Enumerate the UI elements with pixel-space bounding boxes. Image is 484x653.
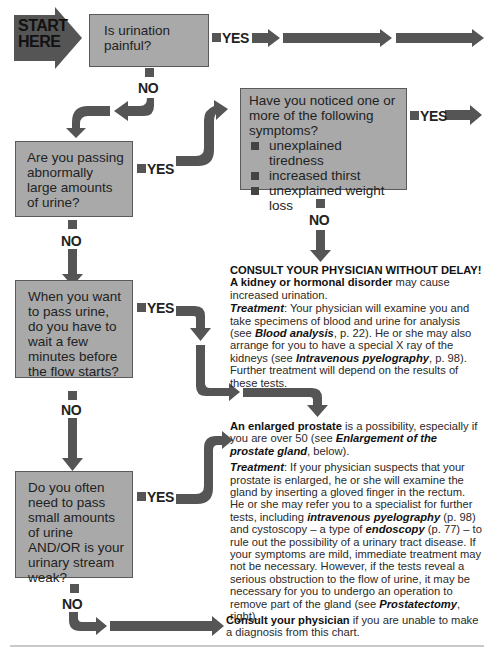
question-box-painful-urination: Is urination painful? bbox=[89, 14, 209, 67]
yes-marker-icon bbox=[137, 164, 146, 173]
question-box-wait-flow: When you want to pass urine, do you have… bbox=[15, 280, 133, 378]
outcome-consult-physician: Consult your physician if you are unable… bbox=[226, 614, 480, 639]
treatment-label: Treatment bbox=[230, 302, 284, 314]
yes-label: YES bbox=[147, 161, 174, 177]
outcome-kidney-disorder: CONSULT YOUR PHYSICIAN WITHOUT DELAY! A … bbox=[230, 264, 482, 393]
question-text: Have you noticed one or more of the foll… bbox=[249, 93, 400, 213]
question-text: Is urination painful? bbox=[104, 23, 188, 53]
treatment-label: Treatment bbox=[230, 461, 284, 473]
yes-arrow-icon bbox=[176, 100, 228, 166]
yes-label: YES bbox=[222, 30, 249, 46]
symptom-item: unexplained tiredness bbox=[249, 138, 400, 168]
consult-bold: Consult your physician bbox=[226, 614, 350, 626]
yes-marker-icon bbox=[137, 303, 146, 312]
yes-arrow-icon bbox=[396, 29, 484, 47]
question-box-large-amounts: Are you passing abnormally large amounts… bbox=[15, 141, 133, 217]
yes-label: YES bbox=[420, 108, 447, 124]
yes-arrow-icon bbox=[252, 29, 280, 47]
yes-arrow-icon bbox=[176, 306, 211, 341]
start-line-2: HERE bbox=[18, 34, 68, 50]
question-box-symptoms: Have you noticed one or more of the foll… bbox=[240, 88, 407, 190]
no-arrow-icon bbox=[110, 616, 224, 636]
outcome-enlarged-prostate: An enlarged prostate is a possibility, e… bbox=[230, 420, 482, 627]
no-arrow-icon bbox=[62, 418, 83, 471]
reference-link[interactable]: endoscopy bbox=[366, 523, 425, 535]
yes-marker-icon bbox=[137, 492, 146, 501]
no-arrow-icon bbox=[66, 106, 110, 138]
no-label: NO bbox=[309, 212, 329, 228]
diagnosis-text: , below). bbox=[307, 445, 349, 457]
reference-link[interactable]: intravenous pyelography bbox=[307, 511, 440, 523]
no-arrow-icon bbox=[114, 98, 154, 121]
yes-label: YES bbox=[147, 300, 174, 316]
start-line-1: START bbox=[18, 18, 68, 34]
yes-arrow-icon bbox=[445, 105, 482, 125]
no-label: NO bbox=[61, 233, 81, 249]
symptom-item: increased thirst bbox=[249, 168, 400, 183]
question-box-small-amounts: Do you often need to pass small amounts … bbox=[15, 471, 133, 578]
symptoms-question: Have you noticed one or more of the foll… bbox=[249, 93, 400, 138]
question-text: Are you passing abnormally large amounts… bbox=[27, 150, 126, 210]
yes-arrow-icon bbox=[283, 29, 392, 47]
start-here-label: START HERE bbox=[18, 18, 68, 50]
reference-link[interactable]: Intravenous pyelography bbox=[296, 352, 429, 364]
no-arrow-icon bbox=[69, 612, 107, 635]
question-text: Do you often need to pass small amounts … bbox=[28, 480, 126, 585]
yes-arrow-icon bbox=[176, 431, 233, 504]
no-label: NO bbox=[62, 596, 82, 612]
diagnosis-bold: An enlarged prostate bbox=[230, 420, 342, 432]
diagnosis-bold: A kidney or hormonal disorder bbox=[230, 276, 392, 288]
no-label: NO bbox=[138, 80, 158, 96]
no-label: NO bbox=[61, 402, 81, 418]
yes-marker-icon bbox=[410, 111, 419, 120]
yes-marker-icon bbox=[212, 33, 221, 42]
urgent-headline: CONSULT YOUR PHYSICIAN WITHOUT DELAY! bbox=[230, 264, 482, 276]
symptoms-list: unexplained tiredness increased thirst u… bbox=[249, 138, 400, 213]
symptom-item: unexplained weight loss bbox=[249, 183, 400, 213]
no-arrow-icon bbox=[310, 230, 331, 262]
reference-link[interactable]: Blood analysis bbox=[255, 327, 334, 339]
reference-link[interactable]: Prostatectomy bbox=[379, 598, 457, 610]
yes-label: YES bbox=[147, 489, 174, 505]
page-divider bbox=[10, 645, 484, 647]
question-text: When you want to pass urine, do you have… bbox=[28, 289, 126, 379]
